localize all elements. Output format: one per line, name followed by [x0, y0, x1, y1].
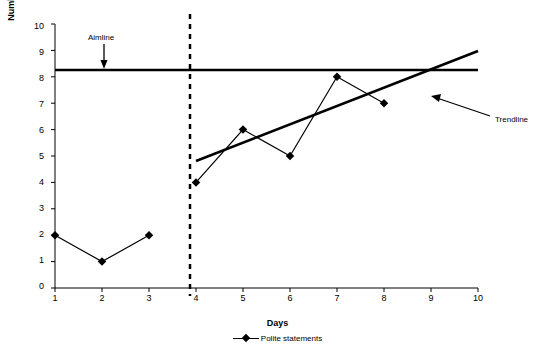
x-axis-ticks: [55, 288, 478, 292]
series-markers-phase-a: [51, 231, 153, 266]
chart-container: Number of polite statements Days 10 9 8 …: [0, 0, 555, 357]
trendline: [196, 51, 478, 161]
series-line-phase-b: [196, 77, 384, 183]
chart-plot-svg: [0, 0, 555, 357]
aimline-arrow: [101, 44, 108, 69]
trendline-arrow: [431, 94, 490, 116]
y-axis-ticks: [51, 24, 55, 288]
legend-marker-icon: [233, 335, 259, 343]
legend-label-polite-statements: Polite statements: [261, 334, 322, 343]
chart-legend: Polite statements: [0, 334, 555, 343]
